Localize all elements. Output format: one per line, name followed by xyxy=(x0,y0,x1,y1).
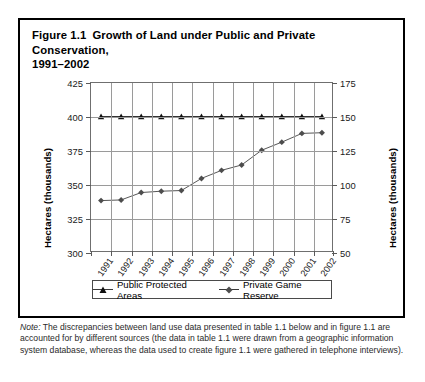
gridline-vertical xyxy=(192,83,193,251)
figure-note: Note: The discrepancies between land use… xyxy=(20,322,408,356)
diamond-marker-icon xyxy=(118,197,124,203)
legend-line-private xyxy=(219,289,239,290)
x-tick-label: 1996 xyxy=(197,256,217,278)
y-tick-right xyxy=(332,219,337,220)
x-tick xyxy=(152,251,153,256)
x-tick-label: 1994 xyxy=(156,256,176,278)
y-tick-right xyxy=(332,151,337,152)
x-tick xyxy=(333,251,334,256)
diamond-marker-icon xyxy=(158,188,164,194)
x-tick-label: 2001 xyxy=(298,256,318,278)
figure-page: Figure 1.1Growth of Land under Public an… xyxy=(0,0,425,382)
gridline-vertical xyxy=(294,83,295,251)
x-tick-label: 2002 xyxy=(318,256,338,278)
y-tick-label-left: 400 xyxy=(67,112,83,123)
y-tick-left xyxy=(86,117,91,118)
gridline-horizontal xyxy=(91,151,332,152)
gridline-vertical xyxy=(213,83,214,251)
x-tick-label: 1993 xyxy=(136,256,156,278)
x-tick xyxy=(213,251,214,256)
chart-area: Hectares (thousands) Hectares (thousands… xyxy=(20,70,403,316)
gridline-vertical xyxy=(273,83,274,251)
gridline-vertical xyxy=(233,83,234,251)
y-tick-label-right: 175 xyxy=(340,78,356,89)
gridline-vertical xyxy=(253,83,254,251)
y-axis-title-right: Hectares (thousands) xyxy=(387,148,398,248)
gridline-vertical xyxy=(172,83,173,251)
gridline-vertical xyxy=(152,83,153,251)
x-tick xyxy=(172,251,173,256)
legend-item-private: Private Game Reserve xyxy=(219,279,331,301)
y-axis-title-left: Hectares (thousands) xyxy=(42,148,53,248)
y-tick-right xyxy=(332,185,337,186)
diamond-marker-icon xyxy=(224,285,233,294)
y-tick-label-right: 150 xyxy=(340,112,356,123)
legend-label-private: Private Game Reserve xyxy=(243,279,331,301)
legend-item-public: Public Protected Areas xyxy=(93,279,205,301)
y-tick-label-left: 325 xyxy=(67,214,83,225)
series-layer xyxy=(91,83,332,251)
diamond-marker-icon xyxy=(279,139,285,145)
y-tick-right xyxy=(332,117,337,118)
chart-legend: Public Protected Areas Private Game Rese… xyxy=(92,280,332,299)
y-tick-left xyxy=(86,185,91,186)
y-tick-label-right: 75 xyxy=(340,214,350,225)
x-tick-label: 1999 xyxy=(258,256,278,278)
y-tick-left xyxy=(86,151,91,152)
gridline-vertical xyxy=(132,83,133,251)
triangle-marker-icon xyxy=(98,285,107,294)
figure-title: Figure 1.1Growth of Land under Public an… xyxy=(32,28,394,72)
diamond-marker-icon xyxy=(319,130,325,136)
x-tick-label: 1992 xyxy=(116,256,136,278)
gridline-vertical xyxy=(111,83,112,251)
y-tick-right xyxy=(332,83,337,84)
x-tick xyxy=(111,251,112,256)
note-text: The discrepancies between land use data … xyxy=(20,322,403,355)
x-tick-label: 1995 xyxy=(177,256,197,278)
x-tick xyxy=(314,251,315,256)
y-tick-label-right: 50 xyxy=(340,248,350,259)
x-tick-label: 1991 xyxy=(96,256,116,278)
diamond-marker-icon xyxy=(219,167,225,173)
y-tick-left xyxy=(86,83,91,84)
y-tick-label-left: 425 xyxy=(67,78,83,89)
figure-number: Figure 1.1 xyxy=(32,29,86,41)
x-tick xyxy=(192,251,193,256)
diamond-marker-icon xyxy=(98,198,104,204)
figure-title-years: 1991–2002 xyxy=(32,58,89,70)
x-tick xyxy=(273,251,274,256)
y-tick-left xyxy=(86,219,91,220)
x-tick-label: 2000 xyxy=(278,256,298,278)
y-tick-label-right: 125 xyxy=(340,146,356,157)
gridline-horizontal xyxy=(91,185,332,186)
y-tick-label-left: 375 xyxy=(67,146,83,157)
diamond-marker-icon xyxy=(178,188,184,194)
diamond-marker-icon xyxy=(198,175,204,181)
gridline-vertical xyxy=(314,83,315,251)
series-line xyxy=(101,133,322,201)
legend-line-public xyxy=(93,289,113,290)
plot-frame: 3005032575350100375125400150425175199119… xyxy=(90,82,333,252)
x-tick-label: 1997 xyxy=(217,256,237,278)
x-tick-label: 1998 xyxy=(237,256,257,278)
figure-container: Figure 1.1Growth of Land under Public an… xyxy=(18,18,405,318)
x-tick xyxy=(233,251,234,256)
y-tick-label-left: 350 xyxy=(67,180,83,191)
y-tick-label-right: 100 xyxy=(340,180,356,191)
diamond-marker-icon xyxy=(299,130,305,136)
note-prefix: Note: xyxy=(20,322,41,332)
gridline-horizontal xyxy=(91,219,332,220)
x-tick xyxy=(132,251,133,256)
x-tick xyxy=(253,251,254,256)
gridline-horizontal xyxy=(91,117,332,118)
x-tick xyxy=(91,251,92,256)
x-tick xyxy=(294,251,295,256)
y-tick-label-left: 300 xyxy=(67,248,83,259)
legend-label-public: Public Protected Areas xyxy=(117,279,205,301)
diamond-marker-icon xyxy=(138,190,144,196)
